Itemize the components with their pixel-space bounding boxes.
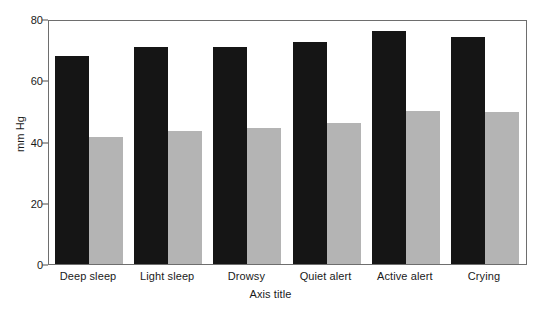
bar-chart: mm Hg 020406080 Deep sleepLight sleepDro… [0, 0, 541, 310]
x-category-label: Drowsy [228, 270, 265, 282]
bar-group [372, 21, 440, 264]
y-axis-tick-labels: 020406080 [20, 0, 48, 310]
x-category-label: Crying [468, 270, 500, 282]
bar-group [134, 21, 202, 264]
bars-container [49, 21, 526, 264]
bar-series1 [134, 47, 168, 264]
bar-series2 [406, 111, 440, 264]
x-category-label: Light sleep [140, 270, 194, 282]
bar-group [451, 21, 519, 264]
plot-area [48, 20, 527, 265]
bar-group [55, 21, 123, 264]
bar-series2 [247, 128, 281, 264]
bar-series2 [168, 131, 202, 264]
bar-series2 [89, 137, 123, 264]
bar-series1 [213, 47, 247, 264]
bar-series1 [55, 56, 89, 264]
bar-series2 [327, 123, 361, 264]
x-category-label: Deep sleep [60, 270, 117, 282]
bar-series1 [372, 31, 406, 264]
bar-series2 [485, 112, 519, 264]
bar-series1 [293, 42, 327, 264]
bar-group [293, 21, 361, 264]
x-category-label: Quiet alert [300, 270, 352, 282]
bar-group [213, 21, 281, 264]
bar-series1 [451, 37, 485, 264]
x-axis-title: Axis title [0, 288, 541, 300]
x-category-label: Active alert [377, 270, 433, 282]
